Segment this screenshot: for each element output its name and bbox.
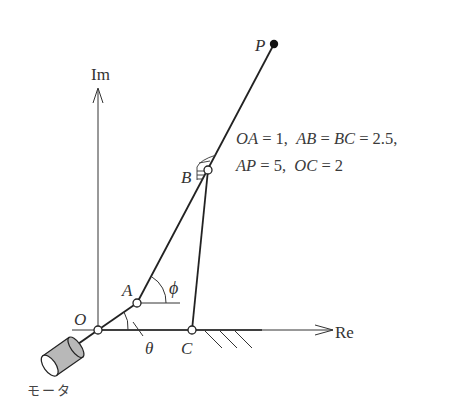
param-AP-value: 5, xyxy=(274,156,286,175)
ground-hatch xyxy=(205,331,252,348)
angle-theta-marker xyxy=(124,312,143,336)
param-OA-name: OA xyxy=(236,129,258,148)
param-AB-name: AB xyxy=(296,129,316,148)
label-C: C xyxy=(181,339,193,358)
parameter-line-1: OA = 1, AB = BC = 2.5, xyxy=(236,125,397,152)
angle-theta-label: θ xyxy=(145,339,153,358)
label-B: B xyxy=(181,168,192,187)
equals-sign: = xyxy=(320,129,329,148)
label-P: P xyxy=(254,36,265,55)
param-AB-BC-value: 2.5, xyxy=(373,129,398,148)
parameter-line-2: AP = 5, OC = 2 xyxy=(236,152,397,179)
real-axis-label: Re xyxy=(335,323,354,342)
imaginary-axis-label: Im xyxy=(91,65,110,84)
param-OC-value: 2 xyxy=(335,156,343,175)
parameter-list: OA = 1, AB = BC = 2.5, AP = 5, OC = 2 xyxy=(236,125,397,179)
param-AP-name: AP xyxy=(236,156,256,175)
param-OC-name: OC xyxy=(294,156,317,175)
linkage-diagram: Im Re θ ϕ xyxy=(0,0,450,416)
param-OA-value: 1, xyxy=(276,129,288,148)
motor-label: モータ xyxy=(27,380,72,399)
link-OA xyxy=(98,303,137,330)
equals-sign: = xyxy=(359,129,368,148)
equals-sign: = xyxy=(321,156,330,175)
real-axis xyxy=(72,325,333,335)
joint-A xyxy=(133,299,141,307)
param-BC-name: BC xyxy=(334,129,355,148)
joint-B xyxy=(204,166,212,174)
joint-O xyxy=(94,326,102,334)
joint-C xyxy=(188,326,196,334)
equals-sign: = xyxy=(260,156,269,175)
motor-icon xyxy=(38,335,87,379)
point-P xyxy=(270,40,278,48)
angle-phi-label: ϕ xyxy=(169,278,178,298)
label-A: A xyxy=(121,281,133,300)
imaginary-axis xyxy=(93,88,103,330)
equals-sign: = xyxy=(262,129,271,148)
label-O: O xyxy=(74,310,86,329)
